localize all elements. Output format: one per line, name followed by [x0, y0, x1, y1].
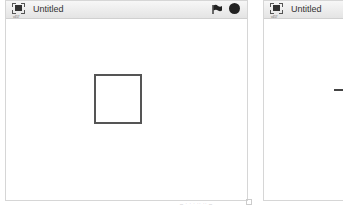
project-title: Untitled [291, 4, 322, 14]
titlebar: v457 Untitled [6, 1, 247, 19]
square-sprite[interactable] [94, 74, 142, 124]
stage-mode-icon[interactable]: v457 [12, 3, 25, 16]
titlebar: v457 Untitled [264, 1, 343, 19]
version-label: v457 [271, 15, 278, 19]
green-flag-icon[interactable] [212, 4, 223, 15]
project-title: Untitled [33, 4, 64, 14]
stop-icon[interactable] [229, 3, 240, 14]
stage-window-left: v457 Untitled [5, 0, 248, 201]
status-bar: — · · · ·· ·· — [180, 202, 213, 206]
line-sprite[interactable] [334, 89, 343, 91]
stage-mode-icon[interactable]: v457 [270, 3, 283, 16]
version-label: v457 [13, 15, 20, 19]
resize-handle[interactable] [246, 199, 252, 205]
stage-window-right: v457 Untitled [263, 0, 343, 201]
